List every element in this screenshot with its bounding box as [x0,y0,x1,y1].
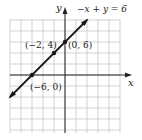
point-label-neg2-4: (−2, 4) [25,40,57,50]
data-point [30,73,34,77]
equation-label: −x + y = 6 [77,4,127,14]
y-axis-label: y [55,2,62,13]
graph: x y −x + y = 6 (−2, 4) (0, 6) (−6, 0) [0,0,142,140]
data-point [52,51,56,55]
y-axis [63,7,68,133]
point-label-neg6-0: (−6, 0) [30,82,62,92]
point-label-0-6: (0, 6) [68,40,92,50]
x-axis [10,73,132,78]
y-axis-arrow-icon [63,7,68,14]
x-axis-label: x [128,77,134,88]
data-point [63,40,67,44]
